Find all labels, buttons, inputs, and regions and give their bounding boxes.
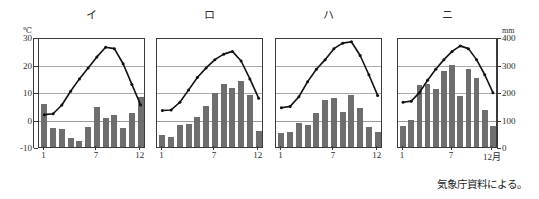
x-tick-label: 7	[449, 150, 454, 160]
temperature-point	[483, 73, 486, 76]
plot-area-1	[38, 38, 145, 148]
temperature-point	[315, 68, 318, 71]
x-axis-tickmark	[491, 146, 492, 150]
temperature-point	[240, 60, 243, 63]
temperature-point	[248, 77, 251, 80]
temperature-point	[418, 91, 421, 94]
right-axis-tick-200: 200	[502, 88, 516, 98]
temperature-point	[306, 80, 309, 83]
temperature-point	[222, 53, 225, 56]
x-axis-tickmark	[402, 146, 403, 150]
temperature-point	[332, 47, 335, 50]
right-axis-tick-100: 100	[502, 116, 516, 126]
temperature-point	[113, 47, 116, 50]
temperature-point	[459, 44, 462, 47]
temperature-point	[122, 62, 125, 65]
temperature-point	[434, 68, 437, 71]
temperature-point	[376, 94, 379, 97]
x-tick-label: 12	[372, 150, 381, 160]
x-axis-tickmark	[43, 146, 44, 150]
chart-panel-3: ハ1712	[275, 0, 382, 175]
chart-title-2: ロ	[156, 6, 263, 22]
x-axis-tickmark	[257, 146, 258, 150]
temperature-point	[187, 88, 190, 91]
temperature-point	[170, 108, 173, 111]
plot-area-3	[275, 38, 382, 148]
temperature-point	[87, 66, 90, 69]
temperature-point	[359, 54, 362, 57]
chart-panel-4: ニ1712月	[397, 0, 497, 175]
temperature-point	[410, 100, 413, 103]
temperature-polyline	[281, 42, 377, 108]
temperature-point	[475, 58, 478, 61]
temperature-point	[196, 76, 199, 79]
right-axis-tickmark	[497, 66, 501, 67]
right-axis-tick-400: 400	[502, 33, 516, 43]
x-axis-labels-3: 1712	[275, 150, 382, 164]
temperature-point	[367, 73, 370, 76]
x-tick-label: 12月	[483, 150, 501, 163]
x-axis-tickmark	[139, 146, 140, 150]
temperature-point	[350, 40, 353, 43]
right-axis-tickmark	[497, 148, 501, 149]
x-tick-label: 7	[331, 150, 336, 160]
temperature-line-3	[276, 39, 382, 148]
temperature-point	[178, 101, 181, 104]
plot-area-2	[156, 38, 263, 148]
x-tick-label: 1	[400, 150, 405, 160]
temperature-point	[60, 104, 63, 107]
temperature-point	[324, 58, 327, 61]
right-axis-tick-300: 300	[502, 61, 516, 71]
x-tick-label: 12	[135, 150, 144, 160]
temperature-point	[213, 58, 216, 61]
source-caption: 気象庁資料による。	[437, 176, 527, 191]
temperature-point	[95, 55, 98, 58]
temperature-point	[257, 97, 260, 100]
temperature-polyline	[162, 51, 258, 110]
temperature-point	[289, 105, 292, 108]
temperature-point	[442, 58, 445, 61]
left-axis-tick-0: 0	[28, 116, 33, 126]
x-axis-tickmark	[332, 146, 333, 150]
x-axis-labels-2: 1712	[156, 150, 263, 164]
plot-area-4	[397, 38, 497, 148]
temperature-point	[491, 91, 494, 94]
temperature-polyline	[44, 47, 140, 114]
x-tick-label: 1	[41, 150, 46, 160]
temperature-point	[78, 77, 81, 80]
left-axis-tick-10: 10	[23, 88, 32, 98]
chart-title-4: ニ	[397, 6, 497, 22]
temperature-line-4	[398, 39, 497, 148]
right-axis-tickmark	[497, 121, 501, 122]
x-axis-tickmark	[376, 146, 377, 150]
temperature-point	[52, 112, 55, 115]
x-tick-label: 7	[212, 150, 217, 160]
temperature-point	[205, 66, 208, 69]
temperature-point	[104, 46, 107, 49]
x-axis-tickmark	[451, 146, 452, 150]
right-axis-tickmark	[497, 93, 501, 94]
temperature-point	[467, 47, 470, 50]
chart-panel-1: イ1712	[38, 0, 145, 175]
left-temperature-axis: ℃ 3020100-10	[4, 38, 34, 148]
temperature-line-1	[39, 39, 145, 148]
temperature-point	[341, 42, 344, 45]
x-tick-label: 1	[159, 150, 164, 160]
temperature-point	[402, 101, 405, 104]
temperature-point	[297, 95, 300, 98]
temperature-point	[43, 113, 46, 116]
temperature-point	[231, 50, 234, 53]
chart-panel-2: ロ1712	[156, 0, 263, 175]
x-axis-tickmark	[95, 146, 96, 150]
right-axis-tickmark	[497, 38, 501, 39]
left-axis-tick-neg10: -10	[20, 143, 32, 153]
temperature-line-2	[157, 39, 263, 148]
temperature-point	[139, 104, 142, 107]
temperature-point	[161, 109, 164, 112]
temperature-point	[130, 83, 133, 86]
temperature-point	[280, 106, 283, 109]
temperature-polyline	[403, 46, 493, 102]
climate-charts-figure: ℃ 3020100-10 mm 4003002001000 イ1712ロ1712…	[0, 0, 539, 199]
left-axis-tick-20: 20	[23, 61, 32, 71]
temperature-point	[69, 90, 72, 93]
